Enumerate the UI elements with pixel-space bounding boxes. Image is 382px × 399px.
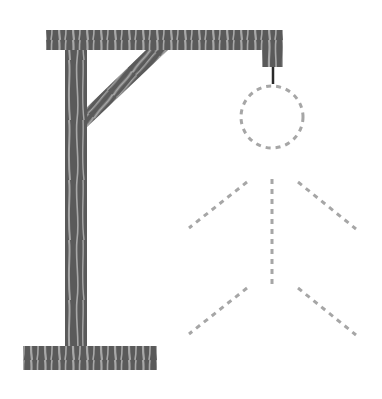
hangman-drawing bbox=[0, 0, 382, 399]
gallows-post bbox=[65, 48, 87, 348]
gallows-brace bbox=[86, 50, 168, 128]
hangman-figure bbox=[189, 86, 356, 335]
gallows-beam bbox=[46, 30, 283, 50]
figure-head bbox=[241, 86, 303, 148]
gallows-base bbox=[23, 346, 157, 370]
gallows bbox=[23, 30, 283, 370]
figure-left-leg bbox=[189, 288, 247, 334]
hangman-canvas bbox=[0, 0, 382, 399]
figure-right-leg bbox=[298, 288, 356, 335]
gallows-hook-block bbox=[262, 48, 283, 67]
figure-right-arm bbox=[298, 182, 356, 229]
figure-left-arm bbox=[189, 182, 247, 228]
